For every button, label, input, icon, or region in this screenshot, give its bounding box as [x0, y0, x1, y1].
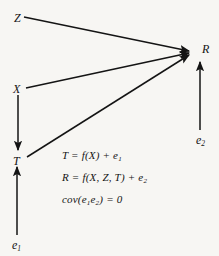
node-e2-subscript: 2 — [201, 139, 205, 148]
equation-r-subscript: 2 — [143, 177, 147, 185]
equation-covariance: cov(e1e2) = 0 — [62, 194, 212, 205]
path-diagram-figure: Z X T R e1 e2 T = f(X) + e1 R = f(X, Z, … — [0, 0, 219, 256]
edge-z-to-r — [24, 17, 189, 51]
equation-r: R = f(X, Z, T) + e2 — [62, 172, 212, 183]
node-label-r: R — [202, 43, 209, 55]
node-label-x: X — [13, 83, 20, 95]
equation-cov-sub1: 1 — [87, 199, 91, 207]
node-label-e1: e1 — [12, 239, 21, 251]
equation-cov-mid: e — [91, 193, 96, 205]
equation-cov-suffix: ) = 0 — [99, 193, 122, 205]
node-z-text: Z — [14, 11, 21, 25]
equation-cov-prefix: cov(e — [62, 193, 87, 205]
equation-list: T = f(X) + e1 R = f(X, Z, T) + e2 cov(e1… — [62, 150, 212, 216]
equation-cov-sub2: 2 — [96, 199, 100, 207]
node-e1-subscript: 1 — [17, 244, 21, 253]
equation-r-text: R = f(X, Z, T) + e — [62, 171, 143, 183]
node-x-text: X — [13, 82, 20, 96]
diagram-canvas — [0, 0, 219, 256]
node-label-t: T — [13, 155, 20, 167]
equation-t: T = f(X) + e1 — [62, 150, 212, 161]
equation-t-text: T = f(X) + e — [62, 149, 118, 161]
node-label-z: Z — [14, 12, 21, 24]
node-label-e2: e2 — [196, 134, 205, 146]
node-t-text: T — [13, 154, 20, 168]
node-r-text: R — [202, 42, 209, 56]
equation-t-subscript: 1 — [118, 155, 122, 163]
